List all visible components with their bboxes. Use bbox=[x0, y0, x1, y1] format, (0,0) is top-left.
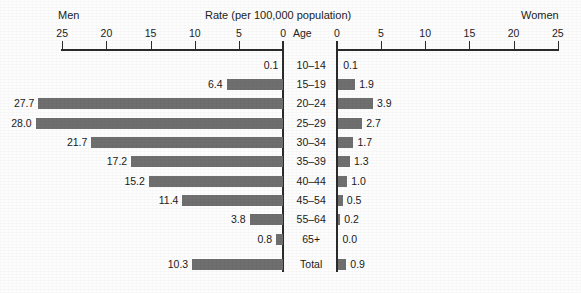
right-axis-tick-label: 10 bbox=[419, 27, 431, 39]
bar-value-men: 3.8 bbox=[231, 214, 246, 225]
age-group-label: 20–24 bbox=[284, 98, 338, 109]
chart-row: 6.415–191.9 bbox=[0, 75, 581, 94]
chart-left-group-label: Men bbox=[58, 10, 79, 21]
bar-value-women: 1.9 bbox=[359, 79, 374, 90]
bar-women bbox=[338, 195, 342, 206]
bar-women bbox=[338, 79, 355, 90]
chart-row: 17.235–391.3 bbox=[0, 152, 581, 171]
right-axis-tick-label: 5 bbox=[378, 27, 384, 39]
bar-men bbox=[192, 259, 283, 270]
bar-women bbox=[338, 118, 362, 129]
bar-women bbox=[338, 98, 372, 109]
chart-row: 3.855–640.2 bbox=[0, 210, 581, 229]
age-group-label: 45–54 bbox=[284, 195, 338, 206]
right-axis-tick-label: 20 bbox=[508, 27, 520, 39]
chart-row: 0.110–140.1 bbox=[0, 56, 581, 75]
bar-women bbox=[338, 176, 347, 187]
age-column-header: Age bbox=[293, 28, 312, 39]
bar-women bbox=[338, 137, 353, 148]
chart-right-group-label: Women bbox=[521, 10, 559, 21]
bar-men bbox=[38, 98, 283, 109]
age-group-label: 15–19 bbox=[284, 79, 338, 90]
chart-row: 10.3Total0.9 bbox=[0, 255, 581, 274]
age-group-label: 10–14 bbox=[284, 60, 338, 71]
bar-men bbox=[227, 79, 284, 90]
bar-value-men: 28.0 bbox=[11, 118, 31, 129]
age-group-label: 55–64 bbox=[284, 214, 338, 225]
bar-men bbox=[250, 214, 284, 225]
age-group-label: 35–39 bbox=[284, 156, 338, 167]
bar-value-women: 1.3 bbox=[354, 156, 369, 167]
bar-men bbox=[131, 156, 283, 167]
bar-value-women: 0.0 bbox=[342, 234, 357, 245]
left-axis-tick-label: 5 bbox=[236, 27, 242, 39]
bar-men bbox=[149, 176, 283, 187]
age-group-label: 25–29 bbox=[284, 118, 338, 129]
bar-value-women: 3.9 bbox=[377, 98, 392, 109]
bar-value-men: 0.8 bbox=[258, 234, 273, 245]
bar-value-men: 21.7 bbox=[67, 137, 87, 148]
bar-value-men: 0.1 bbox=[264, 60, 279, 71]
bar-men bbox=[91, 137, 283, 148]
bar-value-men: 15.2 bbox=[124, 176, 144, 187]
bar-value-women: 0.5 bbox=[347, 195, 362, 206]
right-axis-tick-label: 0 bbox=[334, 27, 340, 39]
bar-value-men: 11.4 bbox=[159, 195, 179, 206]
bar-value-women: 0.9 bbox=[350, 259, 365, 270]
population-pyramid-chart: Men Rate (per 100,000 population) Women … bbox=[0, 0, 581, 293]
age-group-label: Total bbox=[284, 259, 338, 270]
chart-title: Rate (per 100,000 population) bbox=[205, 10, 351, 21]
bar-value-women: 0.2 bbox=[344, 214, 359, 225]
bar-women bbox=[338, 156, 349, 167]
left-axis-tick-label: 25 bbox=[56, 27, 68, 39]
bar-women bbox=[338, 214, 340, 225]
chart-row: 0.865+0.0 bbox=[0, 230, 581, 249]
chart-row: 27.720–243.9 bbox=[0, 94, 581, 113]
right-axis-tick-label: 15 bbox=[464, 27, 476, 39]
bar-men bbox=[276, 234, 283, 245]
bar-value-men: 6.4 bbox=[208, 79, 223, 90]
left-axis-tick-label: 0 bbox=[280, 27, 286, 39]
age-group-label: 65+ bbox=[284, 234, 338, 245]
left-axis-tick-label: 15 bbox=[145, 27, 157, 39]
chart-row: 21.730–341.7 bbox=[0, 133, 581, 152]
left-axis-tick-label: 20 bbox=[101, 27, 113, 39]
bar-value-women: 2.7 bbox=[366, 118, 381, 129]
chart-row: 28.025–292.7 bbox=[0, 114, 581, 133]
bar-value-men: 17.2 bbox=[107, 156, 127, 167]
bar-value-women: 1.7 bbox=[357, 137, 372, 148]
bar-men bbox=[182, 195, 283, 206]
bar-value-women: 0.1 bbox=[343, 60, 358, 71]
bar-value-women: 1.0 bbox=[351, 176, 366, 187]
chart-row: 15.240–441.0 bbox=[0, 172, 581, 191]
age-group-label: 40–44 bbox=[284, 176, 338, 187]
left-axis-tick-label: 10 bbox=[189, 27, 201, 39]
bar-value-men: 10.3 bbox=[168, 259, 188, 270]
left-axis-line bbox=[61, 49, 284, 51]
chart-row: 11.445–540.5 bbox=[0, 191, 581, 210]
bar-value-men: 27.7 bbox=[14, 98, 34, 109]
right-axis-line bbox=[336, 49, 559, 51]
right-axis-tick-label: 25 bbox=[552, 27, 564, 39]
bar-women bbox=[338, 259, 346, 270]
age-group-label: 30–34 bbox=[284, 137, 338, 148]
bar-men bbox=[36, 118, 284, 129]
